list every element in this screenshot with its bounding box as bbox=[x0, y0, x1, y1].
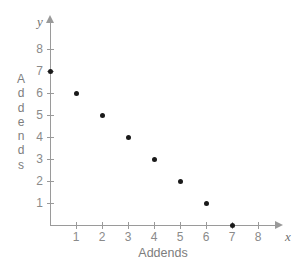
x-axis-tick-label: 4 bbox=[146, 231, 162, 243]
y-axis-title-letter: d bbox=[14, 101, 28, 115]
y-axis-title: Addends bbox=[14, 72, 28, 172]
y-axis-tick bbox=[47, 49, 54, 50]
y-axis-tick bbox=[47, 115, 54, 116]
x-axis-tick bbox=[154, 222, 155, 229]
y-axis-tick-label: 4 bbox=[29, 131, 43, 143]
x-axis-tick bbox=[102, 222, 103, 229]
x-axis-tick-label: 7 bbox=[224, 231, 240, 243]
x-axis-tick bbox=[258, 222, 259, 229]
x-axis-arrow-icon bbox=[275, 221, 283, 229]
data-point bbox=[48, 69, 53, 74]
x-axis-tick-label: 1 bbox=[68, 231, 84, 243]
y-axis-tick bbox=[47, 159, 54, 160]
x-axis-tick bbox=[76, 222, 77, 229]
y-axis-arrow-icon bbox=[46, 15, 54, 23]
y-axis-title-letter: d bbox=[14, 143, 28, 157]
data-point bbox=[152, 157, 157, 162]
x-axis-tick bbox=[206, 222, 207, 229]
y-axis-tick bbox=[47, 181, 54, 182]
x-axis-tick bbox=[128, 222, 129, 229]
y-axis-tick-label: 7 bbox=[29, 65, 43, 77]
y-axis-variable-label: y bbox=[37, 14, 43, 30]
y-axis-tick-label: 6 bbox=[29, 87, 43, 99]
y-axis-title-letter: d bbox=[14, 86, 28, 100]
data-point bbox=[178, 179, 183, 184]
data-point bbox=[126, 135, 131, 140]
y-axis-tick-label: 8 bbox=[29, 43, 43, 55]
y-axis-tick-label: 5 bbox=[29, 109, 43, 121]
y-axis-title-letter: n bbox=[14, 129, 28, 143]
y-axis-title-letter: A bbox=[14, 72, 28, 86]
y-axis-title-letter: s bbox=[14, 158, 28, 172]
x-axis-tick bbox=[180, 222, 181, 229]
x-axis-variable-label: x bbox=[285, 229, 291, 245]
y-axis-tick bbox=[47, 137, 54, 138]
x-axis-tick-label: 3 bbox=[120, 231, 136, 243]
y-axis-tick-label: 3 bbox=[29, 153, 43, 165]
data-point bbox=[230, 223, 235, 228]
data-point bbox=[100, 113, 105, 118]
data-point bbox=[74, 91, 79, 96]
y-axis-tick bbox=[47, 93, 54, 94]
scatter-plot-figure: x y 12345678 12345678 Addends Addends bbox=[0, 0, 303, 268]
data-point bbox=[204, 201, 209, 206]
y-axis-tick-label: 2 bbox=[29, 175, 43, 187]
x-axis-tick-label: 6 bbox=[198, 231, 214, 243]
x-axis-tick-label: 5 bbox=[172, 231, 188, 243]
x-axis-line bbox=[50, 225, 276, 226]
y-axis-tick bbox=[47, 203, 54, 204]
x-axis-tick-label: 8 bbox=[250, 231, 266, 243]
y-axis-tick-label: 1 bbox=[29, 197, 43, 209]
x-axis-title: Addends bbox=[50, 246, 276, 260]
y-axis-title-letter: e bbox=[14, 115, 28, 129]
x-axis-tick-label: 2 bbox=[94, 231, 110, 243]
y-axis-line bbox=[50, 22, 51, 226]
